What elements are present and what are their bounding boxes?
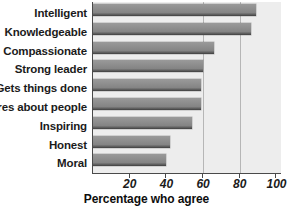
bar-row bbox=[93, 2, 281, 21]
x-axis-tick-label: 60 bbox=[196, 177, 209, 191]
bar bbox=[93, 79, 201, 91]
bar-row bbox=[93, 58, 281, 77]
bar bbox=[93, 42, 214, 54]
y-axis-label: Gets things done bbox=[0, 79, 87, 98]
y-axis-label-group: IntelligentKnowledgeableCompassionateStr… bbox=[0, 4, 89, 173]
plot-area bbox=[92, 2, 281, 174]
bar-row bbox=[93, 77, 281, 96]
y-axis-label: Compassionate bbox=[3, 42, 87, 61]
y-axis-label: Intelligent bbox=[34, 4, 87, 23]
x-axis-tick-label: 100 bbox=[266, 177, 286, 191]
bar-row bbox=[93, 96, 281, 115]
x-axis-tick-label: 20 bbox=[123, 177, 136, 191]
x-axis-tick-label-group: 20406080100 bbox=[0, 177, 293, 193]
bar bbox=[93, 60, 203, 72]
y-axis-label: Honest bbox=[49, 136, 87, 155]
bar bbox=[93, 4, 256, 16]
bar bbox=[93, 23, 251, 35]
x-axis-title: Percentage who agree bbox=[0, 192, 293, 206]
bar-row bbox=[93, 21, 281, 40]
x-axis-tick-label: 40 bbox=[160, 177, 173, 191]
bar bbox=[93, 117, 192, 129]
bar bbox=[93, 136, 170, 148]
y-axis-label: Inspiring bbox=[40, 117, 87, 136]
y-axis-label: Moral bbox=[57, 154, 87, 173]
bar-row bbox=[93, 115, 281, 134]
bar-group bbox=[93, 2, 281, 173]
y-axis-label: Knowledgeable bbox=[5, 23, 87, 42]
bar-row bbox=[93, 152, 281, 171]
bar bbox=[93, 98, 201, 110]
y-axis-label: Strong leader bbox=[15, 60, 87, 79]
bar-row bbox=[93, 40, 281, 59]
y-axis-label: Cares about people bbox=[0, 98, 87, 117]
bar-row bbox=[93, 134, 281, 153]
bar bbox=[93, 154, 166, 166]
bar-chart: IntelligentKnowledgeableCompassionateStr… bbox=[0, 0, 293, 210]
x-axis-tick-label: 80 bbox=[233, 177, 246, 191]
